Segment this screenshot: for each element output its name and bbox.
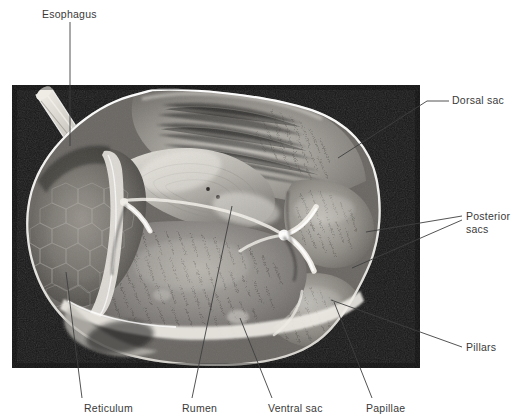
label-esophagus: Esophagus [42, 8, 97, 21]
photo-canvas [12, 85, 420, 368]
label-papillae: Papillae [366, 402, 405, 415]
anatomy-figure: EsophagusDorsal sacPosterior sacsPillars… [0, 0, 516, 419]
label-reticulum: Reticulum [84, 402, 133, 415]
label-posterior-sacs: Posterior sacs [466, 210, 510, 235]
specimen-photograph [12, 85, 420, 368]
label-dorsal-sac: Dorsal sac [452, 94, 504, 107]
label-pillars: Pillars [466, 341, 496, 354]
label-ventral-sac: Ventral sac [268, 402, 323, 415]
label-rumen: Rumen [182, 402, 217, 415]
